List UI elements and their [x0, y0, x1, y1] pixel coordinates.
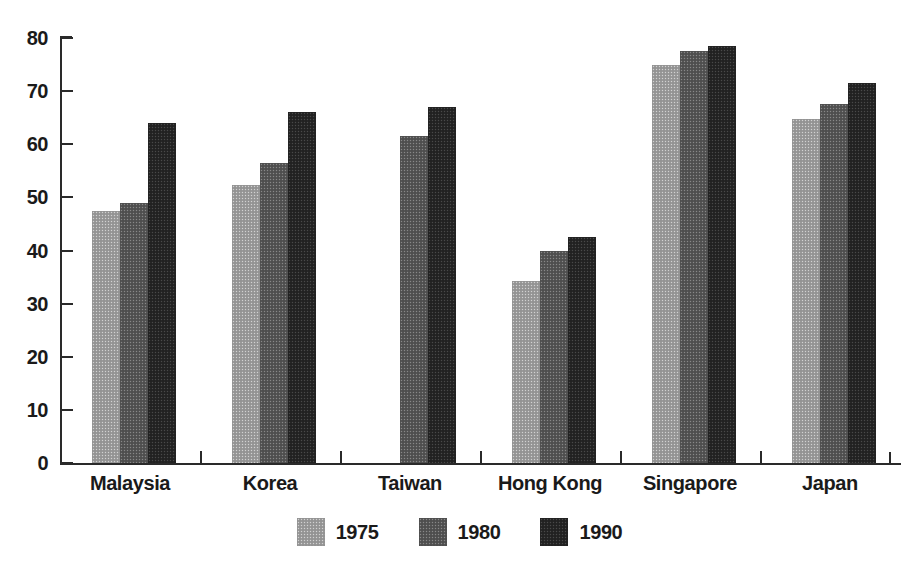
y-axis-tick-label: 80 [0, 28, 48, 48]
bar-group [372, 38, 456, 463]
bar-korea-1980 [260, 163, 288, 463]
bar-japan-1980 [820, 104, 848, 463]
y-axis-tick-label: 0 [0, 453, 48, 473]
bar-group [792, 38, 876, 463]
bar-japan-1990 [848, 83, 876, 463]
plot-area [60, 38, 900, 463]
legend-label-1990: 1990 [579, 521, 622, 544]
bar-japan-1975 [792, 119, 820, 463]
bar-singapore-1975 [652, 65, 680, 463]
legend-swatch-1975 [297, 518, 325, 546]
bar-malaysia-1980 [120, 203, 148, 463]
bar-malaysia-1975 [92, 211, 120, 463]
x-axis-label-hong-kong: Hong Kong [480, 472, 620, 495]
legend-item-1990: 1990 [540, 518, 622, 546]
legend-swatch-1990 [540, 518, 568, 546]
bar-taiwan-1990 [428, 107, 456, 463]
legend-swatch-1980 [419, 518, 447, 546]
bar-singapore-1980 [680, 51, 708, 463]
bar-group [232, 38, 316, 463]
bar-hong-kong-1980 [540, 251, 568, 464]
x-axis-label-japan: Japan [760, 472, 900, 495]
y-axis-tick-label: 40 [0, 241, 48, 261]
legend-item-1975: 1975 [297, 518, 379, 546]
x-axis-label-korea: Korea [200, 472, 340, 495]
legend-label-1975: 1975 [336, 521, 379, 544]
y-axis-tick-label: 70 [0, 81, 48, 101]
chart-legend: 197519801990 [0, 518, 919, 546]
bar-group [92, 38, 176, 463]
legend-item-1980: 1980 [419, 518, 501, 546]
x-axis-label-taiwan: Taiwan [340, 472, 480, 495]
y-axis-tick-label: 20 [0, 347, 48, 367]
bar-group [652, 38, 736, 463]
bar-chart: 01020304050607080 MalaysiaKoreaTaiwanHon… [0, 0, 919, 587]
bar-taiwan-1980 [400, 136, 428, 463]
y-axis-tick-label: 60 [0, 134, 48, 154]
bar-hong-kong-1975 [512, 281, 540, 463]
y-axis-tick-label: 10 [0, 400, 48, 420]
bar-korea-1975 [232, 185, 260, 463]
bar-hong-kong-1990 [568, 237, 596, 463]
x-axis-label-singapore: Singapore [620, 472, 760, 495]
bar-malaysia-1990 [148, 123, 176, 463]
y-axis-tick-label: 50 [0, 187, 48, 207]
legend-label-1980: 1980 [458, 521, 501, 544]
bar-group [512, 38, 596, 463]
bar-singapore-1990 [708, 46, 736, 463]
bar-korea-1990 [288, 112, 316, 463]
x-axis-line [60, 463, 901, 465]
x-axis-label-malaysia: Malaysia [60, 472, 200, 495]
y-axis-tick-label: 30 [0, 294, 48, 314]
